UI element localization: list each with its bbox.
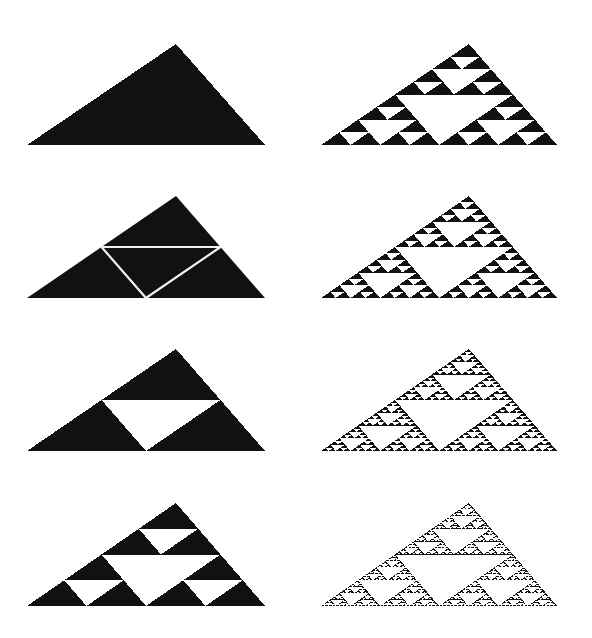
triangle-shape <box>369 596 373 598</box>
triangle-shape <box>548 598 552 600</box>
triangle-shape <box>325 604 329 606</box>
triangle-shape <box>540 588 544 590</box>
triangle-shape <box>336 604 340 606</box>
triangle-shape <box>386 564 390 566</box>
triangle-shape <box>472 553 476 555</box>
triangle-shape <box>398 561 402 563</box>
triangle-shape <box>391 410 398 413</box>
triangle-shape <box>498 574 502 576</box>
triangle-shape <box>461 397 468 400</box>
triangle-shape <box>486 595 490 597</box>
triangle-shape <box>460 196 475 202</box>
triangle-shape <box>389 559 393 561</box>
triangle-shape <box>397 416 404 419</box>
triangle-shape <box>425 540 429 542</box>
triangle-shape <box>373 448 380 451</box>
triangle-shape <box>435 604 439 606</box>
sierpinski-panel-stage-4 <box>321 196 557 298</box>
triangle-shape <box>517 120 547 133</box>
triangle-shape <box>432 397 439 400</box>
triangle-shape <box>462 215 477 221</box>
triangle-shape <box>494 535 498 537</box>
triangle-shape <box>415 585 419 587</box>
triangle-shape <box>478 598 482 600</box>
triangle-shape <box>377 253 392 259</box>
triangle-shape <box>490 548 494 550</box>
triangle-shape <box>437 546 441 548</box>
triangle-shape <box>528 132 558 145</box>
triangle-shape <box>467 273 482 279</box>
triangle-shape <box>470 585 474 587</box>
triangle-shape <box>445 521 449 523</box>
triangle-shape <box>360 603 364 605</box>
triangle-shape <box>421 596 425 598</box>
triangle-shape <box>336 292 351 298</box>
triangle-shape <box>347 592 351 594</box>
triangle-shape <box>507 441 514 444</box>
triangle-shape <box>488 571 492 573</box>
triangle-shape <box>524 592 528 594</box>
triangle-shape <box>394 595 398 597</box>
triangle-shape <box>352 585 356 587</box>
triangle-shape <box>417 553 421 555</box>
triangle-shape <box>425 397 432 400</box>
triangle-shape <box>439 397 446 400</box>
triangle-shape <box>358 604 362 606</box>
triangle-shape <box>504 559 508 561</box>
triangle-shape <box>475 590 479 592</box>
triangle-shape <box>453 513 457 515</box>
triangle-shape <box>464 349 471 352</box>
triangle-shape <box>384 604 388 606</box>
triangle-shape <box>429 550 433 552</box>
triangle-shape <box>391 579 395 581</box>
triangle-shape <box>505 548 509 550</box>
triangle-shape <box>418 432 425 435</box>
triangle-shape <box>515 441 522 444</box>
triangle-shape <box>398 604 402 606</box>
triangle-shape <box>446 604 450 606</box>
triangle-shape <box>368 595 372 597</box>
triangle-shape <box>476 548 480 550</box>
triangle-shape <box>476 422 483 425</box>
triangle-shape <box>381 563 385 565</box>
triangle-shape <box>488 394 495 397</box>
triangle-shape <box>499 406 506 409</box>
triangle-shape <box>512 564 516 566</box>
sierpinski-panel-stage-6 <box>321 503 557 606</box>
triangle-shape <box>515 577 519 579</box>
triangle-shape <box>364 438 371 441</box>
triangle-shape <box>356 429 363 432</box>
triangle-shape <box>517 596 521 598</box>
triangle-shape <box>409 387 416 390</box>
triangle-shape <box>492 601 496 603</box>
triangle-shape <box>353 603 357 605</box>
triangle-shape <box>412 426 419 429</box>
triangle-shape <box>403 432 410 435</box>
triangle-shape <box>439 527 443 529</box>
triangle-shape <box>467 503 471 505</box>
triangle-shape <box>530 577 534 579</box>
triangle-shape <box>486 530 490 532</box>
triangle-shape <box>458 592 462 594</box>
triangle-shape <box>410 553 414 555</box>
triangle-shape <box>446 548 450 550</box>
triangle-shape <box>499 575 503 577</box>
triangle-shape <box>451 359 458 362</box>
triangle-shape <box>392 575 396 577</box>
triangle-shape <box>534 590 538 592</box>
triangle-shape <box>505 448 512 451</box>
triangle-shape <box>513 448 520 451</box>
triangle-shape <box>471 521 475 523</box>
triangle-shape <box>380 292 395 298</box>
triangle-shape <box>542 292 557 298</box>
triangle-shape <box>432 57 462 70</box>
triangle-shape <box>464 587 468 589</box>
triangle-shape <box>516 595 520 597</box>
triangle-shape <box>370 571 374 573</box>
triangle-shape <box>393 555 397 557</box>
triangle-shape <box>493 234 508 240</box>
triangle-shape <box>438 538 442 540</box>
triangle-shape <box>480 527 484 529</box>
triangle-shape <box>476 604 480 606</box>
triangle-shape <box>345 603 349 605</box>
